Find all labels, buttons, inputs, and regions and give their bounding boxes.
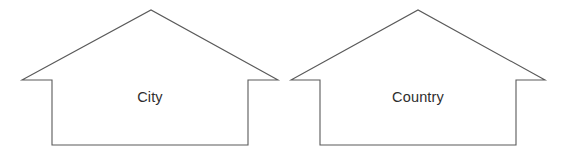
house-shape-country: Country [291,10,545,145]
house-label-country: Country [392,89,444,105]
diagram-canvas: City Country [0,0,565,153]
house-shape-city: City [22,10,278,145]
house-label-city: City [137,89,163,105]
house-outline-city [22,10,278,145]
house-diagram: City Country [0,0,565,153]
house-outline-country [291,10,545,145]
